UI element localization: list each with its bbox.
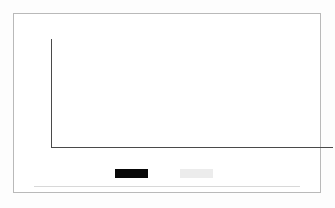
chart-legend bbox=[14, 169, 320, 178]
legend-swatch-icon bbox=[180, 169, 213, 178]
chart-panel bbox=[13, 13, 321, 193]
legend-item-john-wood bbox=[180, 169, 219, 178]
legend-divider bbox=[34, 186, 300, 187]
x-axis-line bbox=[51, 147, 333, 148]
plot-area bbox=[52, 40, 332, 147]
chart-screenshot bbox=[0, 0, 335, 208]
legend-item-quincy-college bbox=[115, 169, 154, 178]
legend-swatch-icon bbox=[115, 169, 148, 178]
bar-series-group bbox=[52, 40, 332, 147]
